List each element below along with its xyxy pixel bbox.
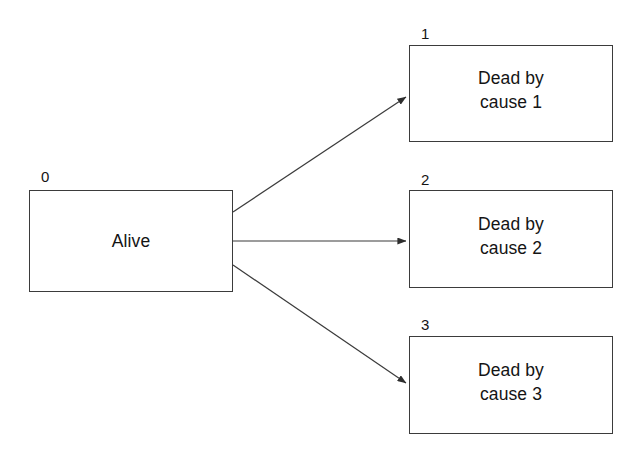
node-dead-cause-3[interactable]: Dead by cause 3 xyxy=(409,336,613,434)
node-dead-cause-1-label: Dead by cause 1 xyxy=(478,67,544,114)
node-dead-cause-1-id: 1 xyxy=(421,26,430,41)
node-alive[interactable]: Alive xyxy=(29,190,233,292)
node-dead-cause-3-label: Dead by cause 3 xyxy=(478,359,544,406)
node-alive-id: 0 xyxy=(41,169,50,184)
diagram-canvas: Alive 0 Dead by cause 1 1 Dead by cause … xyxy=(0,0,642,457)
node-dead-cause-2[interactable]: Dead by cause 2 xyxy=(409,190,613,288)
node-dead-cause-1[interactable]: Dead by cause 1 xyxy=(409,45,613,142)
node-dead-cause-3-id: 3 xyxy=(421,317,430,332)
edge-alive-to-cause1 xyxy=(233,97,406,212)
edge-alive-to-cause3 xyxy=(233,265,406,383)
node-dead-cause-2-id: 2 xyxy=(421,172,430,187)
node-dead-cause-2-label: Dead by cause 2 xyxy=(478,213,544,260)
node-alive-label: Alive xyxy=(112,230,150,254)
